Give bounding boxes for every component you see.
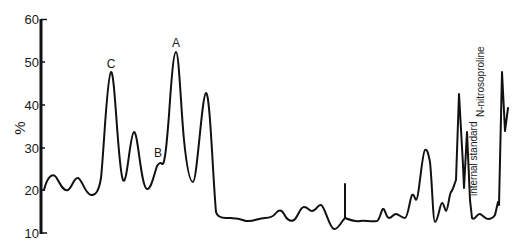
y-tick-50: 50: [25, 55, 39, 70]
peak-label-c: C: [107, 57, 116, 71]
label-n-nitrosoproline: N-nitrosoproline: [475, 46, 486, 117]
y-axis: 60 50 40 30 20 10 %: [11, 12, 47, 241]
y-tick-60: 60: [25, 12, 39, 27]
peak-label-b: B: [154, 146, 162, 160]
y-axis-label: %: [11, 121, 28, 134]
peak-label-a: A: [172, 36, 180, 50]
y-tick-10: 10: [25, 226, 39, 241]
chromatogram-trace: [44, 52, 508, 229]
chromatogram-chart: 60 50 40 30 20 10 % C B A N-nitrosoproli…: [0, 0, 527, 250]
y-tick-20: 20: [25, 183, 39, 198]
y-tick-40: 40: [25, 98, 39, 113]
label-internal-standard: internal standard: [468, 122, 479, 197]
y-tick-30: 30: [25, 141, 39, 156]
peak-annotations: C B A N-nitrosoproline internal standard: [107, 36, 486, 196]
